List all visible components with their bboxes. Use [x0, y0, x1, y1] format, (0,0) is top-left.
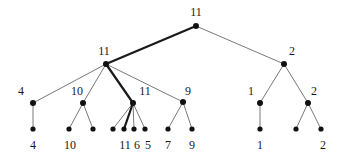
tree-node[interactable] — [193, 23, 199, 29]
tree-node-label: 11 — [190, 6, 202, 18]
tree-node[interactable] — [130, 100, 136, 106]
tree-node-label: 1 — [257, 139, 263, 151]
tree-edge — [113, 103, 133, 129]
tree-edge — [196, 26, 284, 64]
tree-node-label: 11 — [139, 85, 151, 97]
tree-node[interactable] — [281, 61, 287, 67]
tree-node-label: 9 — [189, 139, 195, 151]
tree-node-label: 11 — [119, 139, 131, 151]
tree-edge-highlighted — [124, 103, 133, 129]
tree-node[interactable] — [180, 99, 186, 105]
tree-node[interactable] — [90, 126, 95, 131]
tree-node-label: 7 — [165, 139, 171, 151]
tree-node-label: 6 — [134, 139, 140, 151]
tree-node[interactable] — [142, 126, 147, 131]
tree-edge-highlighted — [106, 64, 133, 103]
tree-graph-canvas — [0, 0, 345, 158]
tree-node-label: 4 — [18, 85, 24, 97]
tree-node[interactable] — [131, 126, 136, 131]
tree-edge — [133, 103, 134, 129]
tree-edge-highlighted — [106, 26, 196, 64]
tree-edges-group — [33, 26, 321, 129]
tree-node-label: 11 — [98, 45, 110, 57]
tree-node-label: 10 — [64, 139, 76, 151]
tree-edge — [296, 103, 308, 129]
tree-nodes-group — [30, 23, 324, 132]
tree-node[interactable] — [293, 126, 298, 131]
tree-node-label: 1 — [248, 85, 254, 97]
tree-diagram-figure: 111124101191241011657912 — [0, 0, 345, 158]
tree-node[interactable] — [66, 126, 71, 131]
tree-node-label: 9 — [185, 85, 191, 97]
tree-edge — [69, 103, 83, 129]
tree-node-label: 2 — [320, 139, 326, 151]
tree-edge — [308, 103, 321, 129]
tree-node-label: 4 — [30, 139, 36, 151]
tree-node[interactable] — [318, 126, 323, 131]
tree-edge — [260, 64, 284, 103]
tree-edge — [133, 103, 145, 129]
tree-node[interactable] — [305, 100, 311, 106]
tree-edge — [83, 103, 93, 129]
tree-node[interactable] — [257, 100, 263, 106]
tree-node[interactable] — [30, 100, 36, 106]
tree-node[interactable] — [121, 126, 126, 131]
tree-node-label: 2 — [311, 85, 317, 97]
tree-node-label: 10 — [71, 85, 83, 97]
tree-node[interactable] — [30, 126, 35, 131]
tree-node-label: 2 — [289, 45, 295, 57]
tree-node[interactable] — [103, 61, 109, 67]
tree-node[interactable] — [80, 100, 86, 106]
tree-node[interactable] — [257, 126, 262, 131]
tree-edge — [33, 64, 106, 103]
tree-node[interactable] — [110, 126, 115, 131]
tree-edge — [183, 102, 192, 129]
tree-node[interactable] — [165, 126, 170, 131]
tree-node[interactable] — [189, 126, 194, 131]
tree-node-label: 5 — [145, 139, 151, 151]
tree-edge — [168, 102, 183, 129]
tree-edge — [284, 64, 308, 103]
